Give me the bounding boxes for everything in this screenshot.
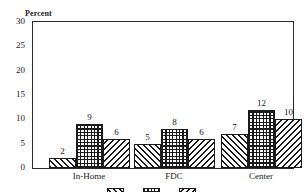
bar-value-label: 7 bbox=[232, 122, 237, 133]
legend-swatch bbox=[143, 188, 160, 193]
x-axis-label-in-home: In-Home bbox=[73, 170, 106, 182]
bar-slot: 6 bbox=[103, 22, 130, 168]
bar[interactable]: 5 bbox=[134, 144, 161, 168]
bar-chart: Percent 051015202530 29658671210 In-Home… bbox=[0, 0, 306, 192]
bar-group-center: 71210 bbox=[221, 22, 302, 168]
y-tick-label: 10 bbox=[16, 113, 25, 124]
bar[interactable]: 2 bbox=[49, 158, 76, 168]
bar-slot: 5 bbox=[134, 22, 161, 168]
bar[interactable]: 8 bbox=[161, 129, 188, 168]
bar-slot: 8 bbox=[161, 22, 188, 168]
bar-slot: 12 bbox=[248, 22, 275, 168]
x-axis-label-center: Center bbox=[249, 170, 273, 182]
bar[interactable]: 12 bbox=[248, 110, 275, 168]
legend-swatch bbox=[107, 188, 124, 193]
bar-slot: 9 bbox=[76, 22, 103, 168]
x-axis-labels: In-HomeFDCCenter bbox=[33, 170, 293, 183]
bar-group-in-home: 296 bbox=[49, 22, 130, 168]
bar[interactable]: 6 bbox=[188, 139, 215, 168]
legend-swatch bbox=[179, 188, 196, 193]
bar-slot: 6 bbox=[188, 22, 215, 168]
legend-item[interactable] bbox=[107, 186, 127, 192]
y-axis-title: Percent bbox=[25, 9, 52, 18]
bar-slot: 2 bbox=[49, 22, 76, 168]
y-tick-label: 20 bbox=[16, 65, 25, 76]
y-tick-label: 0 bbox=[21, 162, 26, 173]
y-tick-label: 15 bbox=[16, 89, 25, 100]
bar-value-label: 6 bbox=[199, 127, 204, 138]
bar[interactable]: 9 bbox=[76, 124, 103, 168]
y-axis: 051015202530 bbox=[0, 21, 32, 169]
bar-slot: 7 bbox=[221, 22, 248, 168]
bar-value-label: 12 bbox=[257, 98, 266, 109]
bar[interactable]: 7 bbox=[221, 134, 248, 168]
bar-group-fdc: 586 bbox=[134, 22, 215, 168]
x-axis-label-fdc: FDC bbox=[165, 170, 183, 182]
bars-layer: 29658671210 bbox=[33, 22, 293, 168]
y-tick-label: 5 bbox=[21, 138, 26, 149]
bar-slot: 10 bbox=[275, 22, 302, 168]
bar-value-label: 10 bbox=[284, 107, 293, 118]
y-tick-label: 25 bbox=[16, 40, 25, 51]
legend bbox=[0, 186, 306, 192]
bar-value-label: 5 bbox=[145, 132, 150, 143]
bar[interactable]: 6 bbox=[103, 139, 130, 168]
bar[interactable]: 10 bbox=[275, 119, 302, 168]
bar-value-label: 6 bbox=[114, 127, 119, 138]
bar-value-label: 9 bbox=[87, 112, 92, 123]
bar-value-label: 2 bbox=[60, 146, 65, 157]
y-tick-label: 30 bbox=[16, 16, 25, 27]
bar-value-label: 8 bbox=[172, 117, 177, 128]
legend-item[interactable] bbox=[143, 186, 163, 192]
legend-item[interactable] bbox=[179, 186, 199, 192]
